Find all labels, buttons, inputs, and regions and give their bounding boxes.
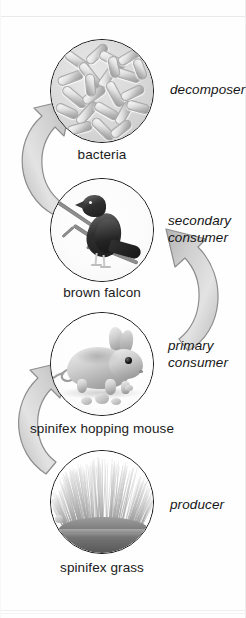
- role-primary-consumer-line2: consumer: [168, 355, 228, 372]
- hopping-mouse-icon: [51, 313, 153, 415]
- label-bacteria: bacteria: [0, 147, 204, 162]
- node-brown-falcon[interactable]: [50, 178, 154, 282]
- node-bacteria[interactable]: [50, 39, 154, 143]
- scan-line-top: [0, 16, 246, 17]
- label-spinifex-grass: spinifex grass: [0, 560, 204, 575]
- role-decomposer: decomposer: [170, 82, 245, 99]
- role-secondary-consumer-line2: consumer: [168, 230, 228, 247]
- spinifex-grass-icon: [51, 451, 153, 553]
- node-spinifex-grass[interactable]: [50, 450, 154, 554]
- falcon-icon: [51, 179, 153, 281]
- scan-line-bottom: [0, 610, 246, 611]
- bacteria-icon: [51, 40, 153, 142]
- page-edge-left: [0, 0, 1, 618]
- label-hopping-mouse: spinifex hopping mouse: [0, 421, 204, 436]
- label-brown-falcon: brown falcon: [0, 285, 204, 300]
- role-secondary-consumer-line1: secondary: [168, 213, 231, 230]
- node-hopping-mouse[interactable]: [50, 312, 154, 416]
- role-primary-consumer-line1: primary: [168, 338, 214, 355]
- scan-line-bottom-secondary: [0, 613, 246, 614]
- diagram-canvas: bacteria decomposer: [0, 0, 246, 618]
- role-producer: producer: [170, 497, 224, 514]
